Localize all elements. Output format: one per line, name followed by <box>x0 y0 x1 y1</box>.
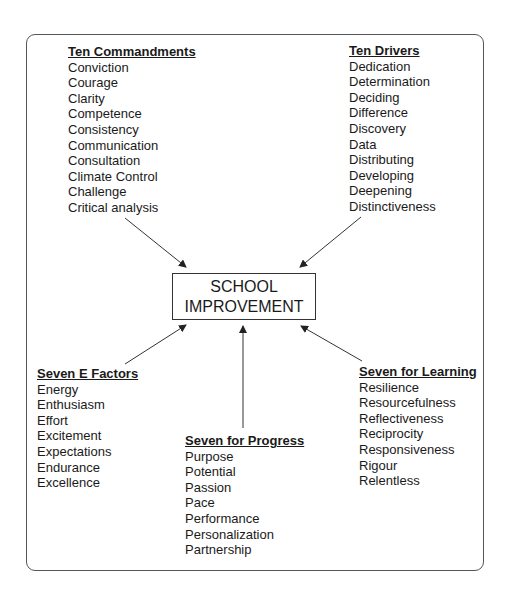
group-ten-commandments: Ten Commandments Conviction Courage Clar… <box>68 44 196 216</box>
group-title: Seven for Progress <box>185 433 304 449</box>
arrow-ten-commandments <box>125 218 186 267</box>
list-item: Discovery <box>349 121 436 137</box>
list-item: Excellence <box>37 475 138 491</box>
arrow-seven-e-factors <box>125 325 186 364</box>
group-seven-e-factors: Seven E Factors Energy Enthusiasm Effort… <box>37 366 138 491</box>
list-item: Rigour <box>359 458 477 474</box>
list-item: Distributing <box>349 152 436 168</box>
list-item: Deepening <box>349 183 436 199</box>
list-item: Critical analysis <box>68 200 196 216</box>
list-item: Difference <box>349 105 436 121</box>
list-item: Clarity <box>68 91 196 107</box>
list-item: Competence <box>68 106 196 122</box>
arrow-seven-for-learning <box>301 326 362 361</box>
list-item: Responsiveness <box>359 442 477 458</box>
list-item: Effort <box>37 413 138 429</box>
list-item: Pace <box>185 495 304 511</box>
list-item: Passion <box>185 480 304 496</box>
group-ten-drivers: Ten Drivers Dedication Determination Dec… <box>349 43 436 215</box>
list-item: Developing <box>349 168 436 184</box>
list-item: Reciprocity <box>359 426 477 442</box>
list-item: Consultation <box>68 153 196 169</box>
list-item: Communication <box>68 138 196 154</box>
list-item: Determination <box>349 74 436 90</box>
list-item: Courage <box>68 75 196 91</box>
list-item: Excitement <box>37 428 138 444</box>
group-title: Seven E Factors <box>37 366 138 382</box>
list-item: Performance <box>185 511 304 527</box>
list-item: Dedication <box>349 59 436 75</box>
list-item: Personalization <box>185 527 304 543</box>
list-item: Endurance <box>37 460 138 476</box>
group-seven-for-learning: Seven for Learning Resilience Resourcefu… <box>359 364 477 489</box>
list-item: Consistency <box>68 122 196 138</box>
list-item: Expectations <box>37 444 138 460</box>
list-item: Resilience <box>359 380 477 396</box>
list-item: Challenge <box>68 184 196 200</box>
arrow-ten-drivers <box>300 217 361 267</box>
group-title: Ten Commandments <box>68 44 196 60</box>
group-seven-for-progress: Seven for Progress Purpose Potential Pas… <box>185 433 304 558</box>
list-item: Reflectiveness <box>359 411 477 427</box>
list-item: Climate Control <box>68 169 196 185</box>
group-title: Ten Drivers <box>349 43 436 59</box>
center-line-1: SCHOOL <box>173 277 315 297</box>
list-item: Data <box>349 137 436 153</box>
list-item: Relentless <box>359 473 477 489</box>
list-item: Deciding <box>349 90 436 106</box>
group-title: Seven for Learning <box>359 364 477 380</box>
list-item: Conviction <box>68 60 196 76</box>
list-item: Purpose <box>185 449 304 465</box>
list-item: Enthusiasm <box>37 397 138 413</box>
list-item: Potential <box>185 464 304 480</box>
list-item: Energy <box>37 382 138 398</box>
list-item: Resourcefulness <box>359 395 477 411</box>
center-line-2: IMPROVEMENT <box>173 297 315 317</box>
school-improvement-box: SCHOOL IMPROVEMENT <box>172 273 316 320</box>
list-item: Distinctiveness <box>349 199 436 215</box>
list-item: Partnership <box>185 542 304 558</box>
